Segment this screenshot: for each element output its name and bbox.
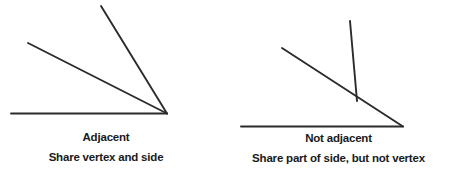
right-diagram-not-adjacent bbox=[241, 21, 403, 127]
angle-comparison-figure: Adjacent Share vertex and side Not adjac… bbox=[0, 0, 449, 184]
notadjacent-diagonal-ray bbox=[282, 48, 403, 127]
notadjacent-vertical-ray bbox=[350, 21, 357, 101]
left-diagram-adjacent bbox=[11, 6, 167, 114]
not-adjacent-caption-title: Not adjacent bbox=[228, 133, 449, 145]
not-adjacent-caption-subtitle: Share part of side, but not vertex bbox=[228, 153, 449, 165]
adjacent-caption-subtitle: Share vertex and side bbox=[0, 152, 212, 164]
adjacent-caption-title: Adjacent bbox=[0, 132, 212, 144]
